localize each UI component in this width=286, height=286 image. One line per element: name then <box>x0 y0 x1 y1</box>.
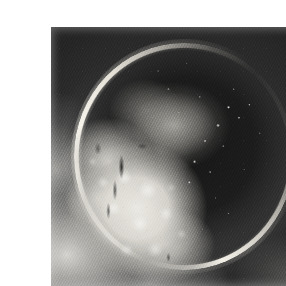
film-grain-layer <box>51 27 286 286</box>
screenshot-root <box>0 0 286 286</box>
medical-photograph <box>51 27 286 286</box>
